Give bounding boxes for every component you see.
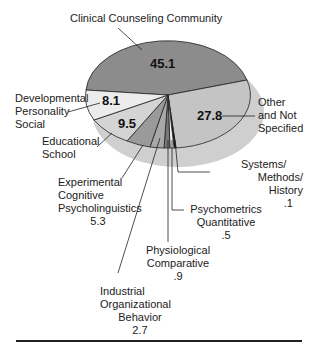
label-industrial-line1: Industrial <box>100 285 180 298</box>
label-other-line3: Specified <box>258 122 303 135</box>
value-experimental: 5.3 <box>58 215 138 228</box>
label-psychometrics-line2: Quantitative <box>186 216 266 229</box>
label-developmental-line1: Developmental <box>15 92 88 105</box>
label-psychometrics: Psychometrics Quantitative .5 <box>186 203 266 242</box>
label-physiological-line1: Physiological <box>138 244 218 257</box>
label-developmental-line3: Social <box>15 118 88 131</box>
label-experimental-line3: Psycholinguistics <box>58 202 138 215</box>
value-clinical: 45.1 <box>150 56 175 71</box>
label-clinical: Clinical Counseling Community <box>70 12 222 25</box>
value-developmental: 8.1 <box>102 93 120 108</box>
label-experimental: Experimental Cognitive Psycholinguistics… <box>58 176 138 228</box>
label-industrial-line3: Behavior <box>100 311 180 324</box>
label-developmental-line2: Personality <box>15 105 88 118</box>
label-developmental: Developmental Personality Social <box>15 92 88 131</box>
label-other: Other and Not Specified <box>258 96 303 135</box>
bottom-rule <box>16 340 302 342</box>
value-other: 27.8 <box>197 108 222 123</box>
value-psychometrics: .5 <box>186 229 266 242</box>
label-industrial: Industrial Organizational Behavior 2.7 <box>100 285 180 337</box>
label-physiological-line2: Comparative <box>138 257 218 270</box>
value-industrial: 2.7 <box>100 324 180 337</box>
label-educational: Educational School <box>42 135 100 161</box>
label-systems-line2: Methods/ <box>241 171 303 184</box>
label-educational-line2: School <box>42 148 100 161</box>
value-educational: 9.5 <box>118 116 136 131</box>
label-systems-line1: Systems/ <box>241 158 303 171</box>
label-other-line2: and Not <box>258 109 303 122</box>
label-educational-line1: Educational <box>42 135 100 148</box>
label-physiological: Physiological Comparative .9 <box>138 244 218 283</box>
label-psychometrics-line1: Psychometrics <box>186 203 266 216</box>
label-experimental-line2: Cognitive <box>58 189 138 202</box>
label-industrial-line2: Organizational <box>100 298 180 311</box>
label-experimental-line1: Experimental <box>58 176 138 189</box>
label-systems-line3: History <box>241 184 303 197</box>
value-physiological: .9 <box>138 270 218 283</box>
label-other-line1: Other <box>258 96 303 109</box>
